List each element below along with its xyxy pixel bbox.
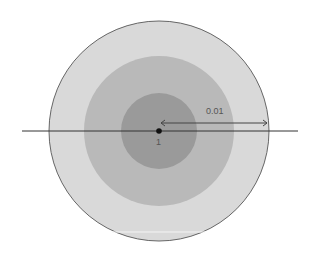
center-label: 1 <box>156 137 161 147</box>
distance-label: 0.01 <box>206 106 224 116</box>
concentric-circles-diagram: 0.01 1 <box>0 0 316 260</box>
center-point <box>156 128 162 134</box>
